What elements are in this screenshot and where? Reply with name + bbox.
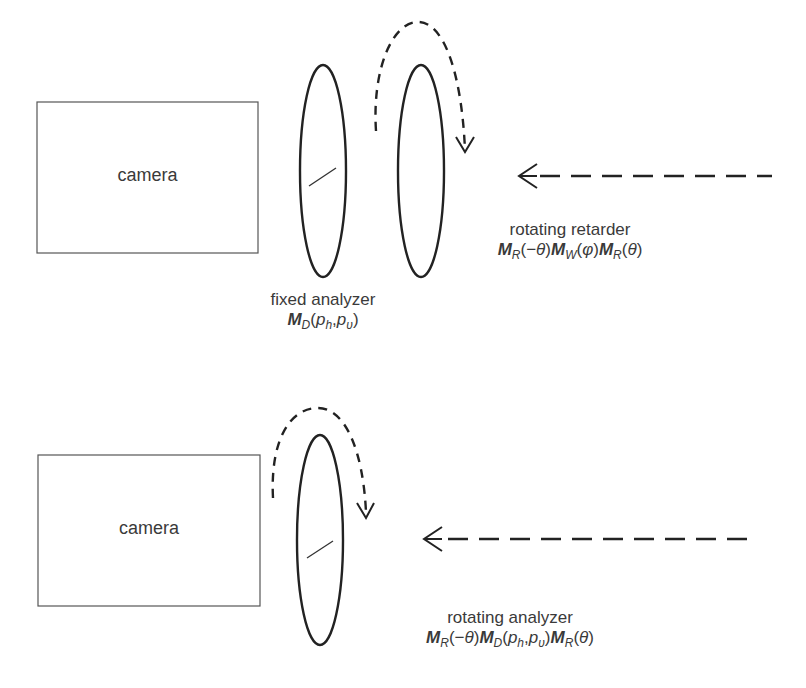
diagram-canvas — [0, 0, 806, 688]
fixed-analyzer-lens — [300, 65, 346, 277]
fixed-analyzer-caption: fixed analyzer MD(ph,pυ) — [223, 290, 423, 335]
rotation-arrow-top — [375, 22, 465, 150]
rotating-retarder-label: rotating retarder — [450, 220, 690, 240]
analyzer-axis-line — [309, 168, 336, 186]
camera-label-bottom: camera — [38, 518, 260, 539]
fixed-analyzer-formula: MD(ph,pυ) — [223, 310, 423, 335]
light-arrowhead-bottom — [424, 527, 442, 551]
rotating-retarder-caption: rotating retarder MR(−θ)MW(φ)MR(θ) — [450, 220, 690, 265]
fixed-analyzer-label: fixed analyzer — [223, 290, 423, 310]
rotation-arrow-bottom — [273, 408, 366, 512]
rotating-analyzer-caption: rotating analyzer MR(−θ)MD(ph,pυ)MR(θ) — [385, 608, 635, 653]
camera-label-top: camera — [37, 165, 258, 186]
rotating-analyzer-lens — [297, 435, 343, 645]
light-arrowhead-top — [519, 164, 537, 188]
analyzer-axis-line-bottom — [307, 541, 333, 558]
rotating-retarder-lens — [398, 65, 444, 277]
rotating-analyzer-label: rotating analyzer — [385, 608, 635, 628]
rotating-analyzer-formula: MR(−θ)MD(ph,pυ)MR(θ) — [385, 628, 635, 653]
rotating-retarder-formula: MR(−θ)MW(φ)MR(θ) — [450, 240, 690, 265]
